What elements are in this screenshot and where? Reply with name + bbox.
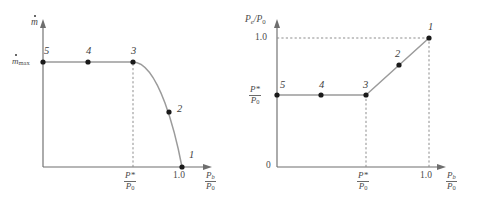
point-label-3: 3 [363,80,368,91]
y-axis-title: m [31,18,38,28]
point-label-2: 2 [177,104,182,115]
datapoint-4 [85,59,90,64]
point-label-2: 2 [395,49,400,60]
x-axis-title: Pb P0 [446,171,457,191]
x-tick-label-critical-ratio: P* P0 [124,171,136,191]
point-label-1: 1 [189,150,194,161]
datapoint-1 [426,35,431,40]
datapoint-3 [363,92,368,97]
point-label-5: 5 [280,80,285,91]
point-label-4: 4 [319,80,324,91]
y-tick-label-critical-ratio: P* P0 [249,85,261,105]
mass-flow-curve [43,62,182,167]
datapoint-2 [166,109,171,114]
exit-pressure-curve [277,38,429,95]
datapoint-5 [40,59,45,64]
datapoint-3 [130,59,135,64]
y-tick-label-mdot-max: mmax [12,57,30,67]
datapoint-1 [179,164,184,169]
mass-flow-plot-canvas [0,0,239,204]
x-axis-title: Pb P0 [205,171,216,191]
x-tick-label-critical-ratio: P* P0 [357,171,369,191]
point-label-4: 4 [86,46,91,57]
datapoint-5 [274,92,279,97]
x-tick-label-one: 1.0 [173,171,185,181]
point-label-5: 5 [44,46,49,57]
datapoint-2 [396,62,401,67]
x-tick-label-one: 1.0 [420,171,432,181]
figure-root: m mmax 5 4 3 2 1 P* P0 1.0 Pb P0 [0,0,478,204]
x-axis-arrow-icon [437,164,446,170]
y-axis-arrow-icon [274,19,280,28]
chart-mass-flow: m mmax 5 4 3 2 1 P* P0 1.0 Pb P0 [0,0,239,204]
point-label-1: 1 [428,22,433,33]
datapoint-4 [318,92,323,97]
y-axis-title: Pe/P0 [245,15,266,25]
y-tick-label-zero: 0 [266,161,271,171]
y-axis-arrow-icon [40,19,46,28]
y-tick-label-one: 1.0 [255,33,267,43]
point-label-3: 3 [131,46,136,57]
chart-exit-pressure: Pe/P0 1.0 P* P0 0 5 4 3 2 1 P* P0 1.0 Pb… [239,0,478,204]
